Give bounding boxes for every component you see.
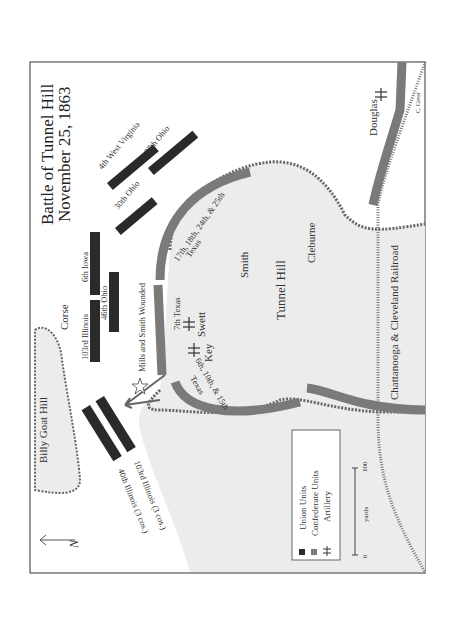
label-corse: Corse <box>58 304 70 330</box>
scale-min-label: 0 <box>361 554 369 558</box>
legend-confederate-label: Confederate Units <box>310 470 320 536</box>
confederate-line-7th-texas <box>158 285 162 375</box>
label-tunnel-hill: Tunnel Hill <box>273 260 288 320</box>
label-cleburne: Cleburne <box>305 223 317 263</box>
label-key: Key <box>202 343 214 362</box>
label-smith: Smith <box>238 251 250 278</box>
label-103rd-illinois: 103rd Illinois <box>80 314 90 360</box>
legend-artillery-label: Artillery <box>322 491 332 522</box>
label-douglas: Douglas <box>367 99 379 136</box>
label-7th-texas: 7th Texas <box>172 297 182 330</box>
union-46th-ohio <box>109 272 119 332</box>
union-6th-iowa <box>90 232 100 295</box>
label-46th-ohio: 46th Ohio <box>99 286 109 320</box>
label-railroad: Chattanooga & Cleveland Railroad <box>388 245 400 400</box>
label-swett: Swett <box>195 312 207 337</box>
map-credit: C. Grear <box>415 92 421 113</box>
label-6th-iowa: 6th Iowa <box>80 252 90 282</box>
north-label: N <box>67 539 81 549</box>
map-date: November 25, 1863 <box>55 86 74 222</box>
legend-confederate-swatch <box>311 549 317 555</box>
map-render: Battle of Tunnel Hill November 25, 1863 … <box>0 0 468 644</box>
label-mills-smith-wounded: Mills and Smith Wounded <box>137 282 147 372</box>
label-billy-goat-hill: Billy Goat Hill <box>37 397 49 463</box>
scale-max-label: 100 <box>361 461 369 472</box>
legend-union-label: Union Units <box>298 485 308 530</box>
scale-unit-label: yards <box>362 507 370 522</box>
legend-union-swatch <box>299 549 305 555</box>
